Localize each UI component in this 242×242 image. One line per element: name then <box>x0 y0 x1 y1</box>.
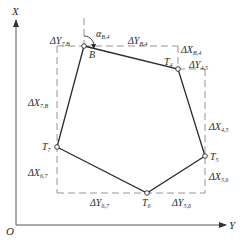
delta-y-7b-label: ΔY7,B <box>49 35 70 47</box>
station-b-label: B <box>89 49 95 60</box>
station-t4-marker <box>176 67 181 72</box>
x-axis-label: X <box>11 5 20 17</box>
station-t7-label: T7 <box>42 141 52 153</box>
delta-x-b4-label: ΔXB,4 <box>180 44 201 56</box>
station-t5-marker <box>203 154 208 159</box>
station-t4-label: T4 <box>164 56 173 68</box>
station-t5-label: T5 <box>210 151 219 163</box>
coordinate-axes: X Y O <box>6 5 237 237</box>
station-t7-marker <box>55 145 60 150</box>
traverse-diagram: X Y O αB,4 B T4 T5 T6 T7 <box>0 0 242 242</box>
station-t6-marker <box>145 191 150 196</box>
delta-y-b4-label: ΔYB,4 <box>127 35 148 47</box>
origin-label: O <box>6 225 14 237</box>
delta-x-45-label: ΔX4,5 <box>208 121 228 133</box>
delta-x-67-label: ΔX6,7 <box>27 167 48 179</box>
delta-y-56-label: ΔY5,6 <box>171 197 191 209</box>
delta-y-45-label: ΔY4,5 <box>188 59 208 71</box>
angle-label: αB,4 <box>96 28 109 40</box>
delta-x-56-label: ΔX5,6 <box>208 171 228 183</box>
delta-y-67-label: ΔY6,7 <box>89 197 110 209</box>
station-b-marker <box>82 44 87 49</box>
station-markers <box>55 44 208 196</box>
traverse-polygon <box>57 46 205 193</box>
y-axis-label: Y <box>229 219 237 231</box>
delta-x-7b-label: ΔX7,B <box>27 97 48 109</box>
station-t6-label: T6 <box>142 197 151 209</box>
traverse-edges <box>57 46 205 193</box>
